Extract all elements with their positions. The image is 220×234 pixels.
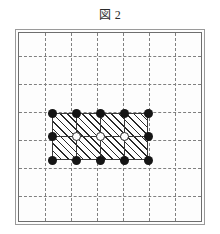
grid-line-vertical-5: [175, 33, 176, 221]
grid-line-horizontal-0: [19, 56, 201, 57]
grid-line-vertical-4: [149, 33, 150, 221]
figure-caption: 図 2: [0, 8, 220, 22]
grid-line-horizontal-1: [19, 84, 201, 85]
grid-line-horizontal-2: [19, 112, 201, 113]
grid-line-vertical-1: [71, 33, 72, 221]
grid-line-vertical-0: [45, 33, 46, 221]
grid-line-horizontal-3: [19, 140, 201, 141]
grid-line-vertical-2: [97, 33, 98, 221]
figure-container: 図 2: [0, 0, 220, 234]
background-grid: [19, 33, 201, 221]
grid-line-horizontal-4: [19, 168, 201, 169]
grid-line-vertical-3: [123, 33, 124, 221]
grid-line-horizontal-5: [19, 196, 201, 197]
